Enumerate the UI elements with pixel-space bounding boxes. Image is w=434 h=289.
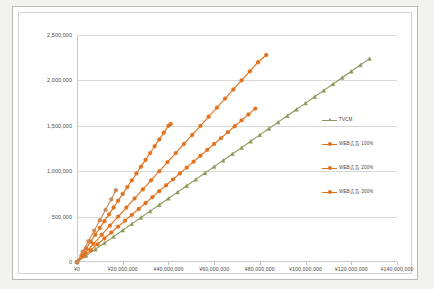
data-point-marker	[141, 187, 145, 191]
legend-swatch-icon	[322, 117, 337, 124]
data-point-marker	[96, 242, 100, 246]
data-point-marker	[130, 178, 134, 182]
chart-object[interactable]: 0500,0001,000,0001,500,0002,000,0002,500…	[18, 12, 412, 274]
data-point-marker	[368, 57, 372, 61]
legend-swatch-icon	[322, 141, 337, 148]
x-axis-tick-label: ¥100,000,000	[289, 266, 322, 272]
data-point-marker	[215, 106, 219, 110]
data-point-marker	[223, 97, 227, 101]
x-axis-tick-label: ¥140,000,000	[381, 266, 414, 272]
data-point-marker	[233, 124, 237, 128]
data-point-marker	[162, 131, 166, 135]
data-point-marker	[157, 189, 161, 193]
data-point-marker	[153, 144, 157, 148]
data-point-marker	[166, 160, 170, 164]
data-point-marker	[190, 133, 194, 137]
chart-legend[interactable]: TVCMWEB広告 100%WEB広告 200%WEB広告 300%	[322, 116, 408, 212]
data-point-marker	[185, 166, 189, 170]
data-point-marker	[121, 192, 125, 196]
data-point-marker	[157, 138, 161, 142]
data-point-marker	[103, 219, 107, 223]
data-point-marker	[264, 53, 268, 57]
data-point-marker	[130, 213, 134, 217]
data-point-marker	[192, 160, 196, 164]
data-point-marker	[207, 115, 211, 119]
legend-swatch-icon	[322, 189, 337, 196]
series-1	[75, 107, 257, 264]
data-point-marker	[116, 199, 120, 203]
data-point-marker	[199, 124, 203, 128]
data-point-marker	[169, 122, 173, 126]
series-2	[75, 53, 268, 264]
legend-item-3[interactable]: WEB広告 300%	[322, 188, 408, 196]
series-line	[77, 55, 266, 262]
legend-item-0[interactable]: TVCM	[322, 116, 408, 124]
data-point-marker	[108, 224, 112, 228]
data-point-marker	[174, 151, 178, 155]
data-point-marker	[248, 69, 252, 73]
data-point-marker	[219, 136, 223, 140]
data-point-marker	[116, 215, 120, 219]
data-point-marker	[144, 158, 148, 162]
x-axis-tick-label: ¥80,000,000	[245, 266, 275, 272]
x-axis-tick	[168, 262, 169, 265]
data-point-marker	[151, 195, 155, 199]
data-point-marker	[109, 231, 113, 235]
data-point-marker	[81, 250, 85, 254]
x-axis-tick	[123, 262, 124, 265]
x-axis-tick-label: ¥20,000,000	[108, 266, 138, 272]
x-axis-tick-label: ¥40,000,000	[153, 266, 183, 272]
legend-item-2[interactable]: WEB広告 200%	[322, 164, 408, 172]
x-axis-tick-label: ¥0	[74, 266, 80, 272]
data-point-marker	[109, 197, 113, 201]
data-point-marker	[124, 206, 128, 210]
data-point-marker	[171, 177, 175, 181]
data-point-marker	[182, 142, 186, 146]
data-point-marker	[104, 208, 108, 212]
y-axis-tick-label: 2,500,000	[47, 32, 77, 38]
data-point-marker	[107, 212, 111, 216]
data-point-marker	[240, 79, 244, 83]
data-point-marker	[93, 233, 97, 237]
screenshot-root: 0500,0001,000,0001,500,0002,000,0002,500…	[0, 0, 434, 289]
data-point-marker	[256, 60, 260, 64]
chart-outer-frame: 0500,0001,000,0001,500,0002,000,0002,500…	[12, 6, 418, 280]
data-point-marker	[133, 197, 137, 201]
data-point-marker	[199, 154, 203, 158]
data-point-marker	[212, 142, 216, 146]
data-point-marker	[247, 113, 251, 117]
data-point-marker	[123, 219, 127, 223]
data-point-marker	[149, 178, 153, 182]
legend-label: WEB広告 200%	[339, 166, 374, 171]
x-axis-tick	[214, 262, 215, 265]
data-point-marker	[135, 172, 139, 176]
data-point-marker	[116, 225, 120, 229]
data-point-marker	[157, 169, 161, 173]
data-point-marker	[112, 206, 116, 210]
x-axis-tick	[306, 262, 307, 265]
data-point-marker	[100, 233, 104, 237]
y-axis-tick-label: 500,000	[52, 214, 77, 220]
y-axis-tick-label: 1,500,000	[47, 123, 77, 129]
x-axis-tick	[397, 262, 398, 265]
legend-label: TVCM	[339, 118, 352, 123]
data-point-marker	[178, 172, 182, 176]
x-axis-tick	[351, 262, 352, 265]
legend-label: WEB広告 300%	[339, 190, 374, 195]
data-point-marker	[92, 229, 96, 233]
data-point-marker	[240, 118, 244, 122]
data-point-marker	[125, 185, 129, 189]
y-axis-tick-label: 1,000,000	[47, 168, 77, 174]
data-point-marker	[98, 226, 102, 230]
data-point-marker	[137, 207, 141, 211]
legend-label: WEB広告 100%	[339, 142, 374, 147]
data-point-marker	[75, 260, 79, 264]
data-point-marker	[253, 107, 257, 111]
legend-swatch-icon	[322, 165, 337, 172]
x-axis-tick-label: ¥120,000,000	[335, 266, 368, 272]
y-axis-tick-label: 2,000,000	[47, 77, 77, 83]
legend-item-1[interactable]: WEB広告 100%	[322, 140, 408, 148]
data-point-marker	[87, 239, 91, 243]
x-axis-tick	[260, 262, 261, 265]
x-axis-tick-label: ¥60,000,000	[199, 266, 229, 272]
